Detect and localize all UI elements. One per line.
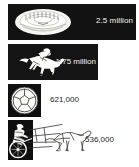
value-label-arena: 2.5 million	[96, 16, 133, 25]
chart-row-arena: 2.5 million	[8, 4, 136, 40]
chart-row-thoroughbred: 1.75 million	[8, 44, 98, 80]
arena-icon	[14, 8, 72, 36]
chart-row-soccer: 621,000	[8, 84, 128, 118]
soccer-ball-icon	[10, 86, 39, 115]
chart-row-harness: 536,000	[8, 120, 138, 164]
value-label-harness: 536,000	[85, 135, 114, 144]
value-label-soccer: 621,000	[50, 95, 79, 104]
pictorial-attendance-chart: 2.5 million	[0, 0, 139, 167]
value-label-thoroughbred: 1.75 million	[56, 57, 96, 66]
